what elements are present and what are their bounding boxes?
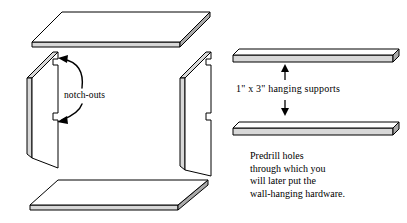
curved-arrow-upper-icon bbox=[58, 55, 82, 88]
lower-support-front-edge bbox=[233, 128, 393, 135]
upper-hanging-support bbox=[233, 49, 399, 62]
predrill-note-line-1: Predrill holes bbox=[250, 150, 380, 163]
right-side-panel bbox=[180, 52, 211, 176]
curved-arrow-lower-icon bbox=[57, 104, 82, 124]
left-side-panel bbox=[27, 52, 58, 168]
right-panel-front-edge bbox=[180, 78, 185, 170]
predrill-note: Predrill holes through which you will la… bbox=[250, 150, 380, 200]
arrow-up-icon bbox=[281, 64, 289, 80]
predrill-note-line-3: will later put the bbox=[250, 175, 380, 188]
arrow-down-icon bbox=[281, 100, 289, 116]
top-panel-face bbox=[32, 12, 210, 42]
upper-support-front-edge bbox=[233, 55, 393, 62]
bottom-panel bbox=[30, 180, 208, 210]
predrill-note-line-4: wall-hanging hardware. bbox=[250, 188, 380, 201]
upper-support-face bbox=[233, 49, 399, 55]
hanging-supports-label: 1" x 3" hanging supports bbox=[236, 84, 340, 94]
left-panel-front-edge bbox=[27, 78, 32, 158]
woodworking-diagram: notch-outs 1" x 3" hanging supports Pred… bbox=[0, 0, 407, 223]
bottom-panel-face bbox=[30, 180, 208, 205]
top-panel bbox=[32, 12, 210, 47]
predrill-note-line-2: through which you bbox=[250, 163, 380, 176]
bottom-panel-front-edge bbox=[30, 205, 178, 210]
lower-hanging-support bbox=[233, 122, 399, 135]
top-panel-front-edge bbox=[32, 42, 180, 47]
lower-support-face bbox=[233, 122, 399, 128]
notch-outs-label: notch-outs bbox=[64, 91, 105, 101]
